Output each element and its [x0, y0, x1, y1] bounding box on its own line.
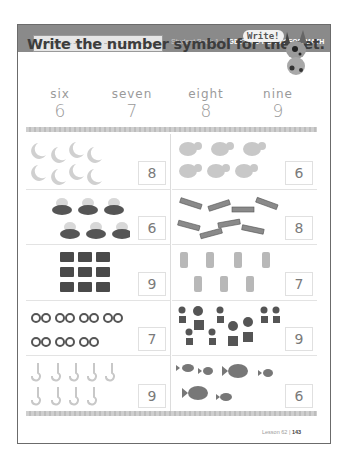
bottom-divider-stripe — [26, 411, 317, 416]
top-divider-stripe — [26, 127, 317, 132]
set-cell-fire-trucks: 9 — [26, 245, 171, 301]
footer-separator: | — [289, 429, 290, 435]
stick-icon-group — [176, 193, 281, 242]
fire-truck-icon-group — [30, 248, 134, 297]
number-word: eight — [176, 87, 236, 101]
number-key-eight: eight 8 — [176, 87, 236, 121]
answer-box[interactable]: 9 — [285, 327, 313, 351]
number-digit: 6 — [30, 101, 90, 121]
number-key-six: six 6 — [30, 87, 90, 121]
elephant-icon — [176, 137, 276, 185]
number-key-seven: seven 7 — [102, 87, 162, 121]
page-number: 143 — [292, 429, 301, 435]
flower-pot-icon-group — [176, 304, 281, 353]
set-cell-bicycles: 7 — [26, 301, 171, 357]
hook-icon-group — [30, 359, 134, 409]
elephant-icon-group — [176, 137, 281, 186]
set-cell-flowers: 9 — [172, 301, 317, 357]
answer-box[interactable]: 8 — [285, 216, 313, 240]
hen-nest-icon — [30, 193, 130, 243]
lesson-label: Lesson 62 — [262, 429, 287, 435]
answer-box[interactable]: 7 — [138, 327, 166, 351]
write-speech-bubble: Write! — [243, 30, 284, 42]
fish-icon — [176, 359, 281, 409]
counting-grid: 8 6 — [26, 134, 317, 412]
crescent-moon-icon-group — [30, 137, 134, 186]
set-cell-elephants: 6 — [172, 134, 317, 190]
bicycle-icon-group — [30, 304, 134, 353]
number-word: seven — [102, 87, 162, 101]
stick-icon — [176, 193, 286, 243]
number-key-nine: nine 9 — [248, 87, 308, 121]
answer-box[interactable]: 8 — [138, 161, 166, 185]
fire-hydrant-icon — [176, 248, 276, 298]
number-word: six — [30, 87, 90, 101]
dog-mascot-icon — [281, 28, 311, 76]
answer-box[interactable]: 9 — [138, 384, 166, 408]
number-digit: 7 — [102, 101, 162, 121]
bicycle-icon — [30, 304, 135, 354]
answer-box[interactable]: 6 — [285, 384, 313, 408]
crescent-moon-icon — [30, 137, 130, 185]
flower-pot-icon — [176, 304, 281, 354]
set-cell-fish: 6 — [172, 356, 317, 412]
answer-box[interactable]: 6 — [138, 216, 166, 240]
fish-icon-group — [176, 359, 281, 409]
fire-truck-icon — [30, 248, 130, 298]
set-cell-sticks: 8 — [172, 190, 317, 246]
number-key-row: six 6 seven 7 eight 8 nine 9 — [30, 87, 300, 123]
answer-box[interactable]: 6 — [285, 161, 313, 185]
answer-box[interactable]: 9 — [138, 272, 166, 296]
answer-box[interactable]: 7 — [285, 272, 313, 296]
number-word: nine — [248, 87, 308, 101]
hen-nest-icon-group — [30, 193, 134, 242]
page-footer: Lesson 62 | 143 — [262, 429, 301, 435]
number-digit: 9 — [248, 101, 308, 121]
set-cell-moons: 8 — [26, 134, 171, 190]
hook-icon — [30, 359, 135, 409]
set-cell-hooks: 9 — [26, 356, 171, 412]
number-digit: 8 — [176, 101, 236, 121]
set-cell-hydrants: 7 — [172, 245, 317, 301]
fire-hydrant-icon-group — [176, 248, 281, 297]
set-cell-hens: 6 — [26, 190, 171, 246]
